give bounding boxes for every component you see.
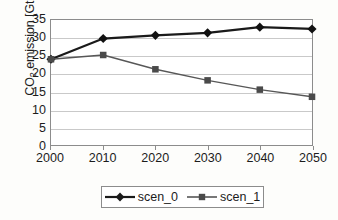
x-tick-label: 2040 xyxy=(237,151,283,165)
data-point-scen_1 xyxy=(48,56,55,62)
series-line-scen_1 xyxy=(51,55,312,97)
chart-figure: CO2 emission [GtC] 35302520151050 200020… xyxy=(0,0,338,220)
y-tick-label: 15 xyxy=(24,86,46,98)
x-tick-mark xyxy=(50,146,51,150)
data-point-scen_1 xyxy=(309,94,316,100)
legend-item-scen-0[interactable]: scen_0 xyxy=(105,190,178,204)
y-tick-label: 5 xyxy=(24,122,46,134)
data-point-scen_1 xyxy=(100,52,107,58)
y-tick-label: 35 xyxy=(24,13,46,25)
x-tick-mark xyxy=(260,146,261,150)
y-axis-ticks: 35302520151050 xyxy=(20,0,46,220)
x-tick-label: 2030 xyxy=(185,151,231,165)
data-point-scen_0 xyxy=(255,23,264,32)
series-line-scen_0 xyxy=(51,27,312,59)
data-point-scen_0 xyxy=(203,28,212,37)
x-tick-label: 2000 xyxy=(27,151,73,165)
data-point-scen_1 xyxy=(257,86,264,92)
x-tick-mark xyxy=(155,146,156,150)
x-tick-label: 2020 xyxy=(132,151,178,165)
data-point-scen_0 xyxy=(99,34,108,43)
data-point-scen_1 xyxy=(152,66,159,72)
data-point-scen_1 xyxy=(204,77,211,83)
legend-item-scen-1[interactable]: scen_1 xyxy=(187,190,260,204)
chart-series-layer xyxy=(51,20,312,145)
x-tick-mark xyxy=(313,146,314,150)
chart-legend: scen_0 scen_1 xyxy=(101,186,264,208)
plot-area xyxy=(50,19,313,146)
x-tick-label: 2050 xyxy=(290,151,336,165)
data-point-scen_0 xyxy=(307,24,316,33)
y-tick-label: 25 xyxy=(24,49,46,61)
x-tick-mark xyxy=(208,146,209,150)
y-tick-label: 30 xyxy=(24,31,46,43)
legend-label-scen-1: scen_1 xyxy=(220,190,260,204)
x-tick-label: 2010 xyxy=(80,151,126,165)
data-point-scen_0 xyxy=(151,31,160,40)
legend-marker-diamond-icon xyxy=(105,191,135,203)
y-tick-label: 10 xyxy=(24,104,46,116)
legend-label-scen-0: scen_0 xyxy=(138,190,178,204)
x-tick-mark xyxy=(103,146,104,150)
y-tick-label: 20 xyxy=(24,67,46,79)
legend-marker-square-icon xyxy=(187,191,217,203)
